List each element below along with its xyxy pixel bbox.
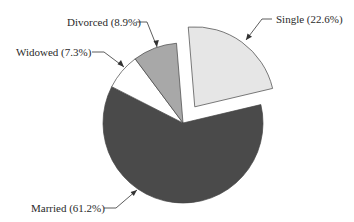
label-widowed: Widowed (7.3%)	[16, 46, 92, 59]
arrow-single-icon	[246, 34, 252, 41]
arrow-widowed-icon	[118, 60, 125, 67]
pie-chart: Divorced (8.9%) Widowed (7.3%) Single (2…	[0, 0, 354, 222]
label-single: Single (22.6%)	[276, 13, 343, 26]
pie-slices	[103, 27, 273, 203]
label-divorced: Divorced (8.9%)	[67, 16, 141, 29]
slice-married	[103, 87, 263, 203]
label-married: Married (61.2%)	[31, 202, 105, 215]
slice-single	[188, 27, 272, 107]
